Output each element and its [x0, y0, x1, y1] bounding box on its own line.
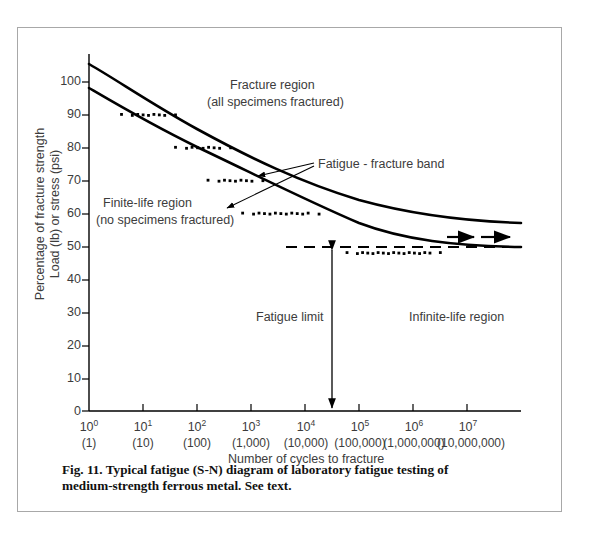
scatter-point	[413, 252, 416, 255]
scatter-point	[207, 179, 210, 182]
fatigue-band-leader-lines	[227, 163, 314, 208]
scatter-point	[382, 252, 385, 255]
figure-caption-line1: Fig. 11. Typical fatigue (S-N) diagram o…	[62, 462, 522, 478]
y-axis-ticks	[82, 82, 89, 411]
scatter-point	[307, 212, 310, 215]
scatter-point	[279, 212, 282, 215]
scatter-point	[258, 212, 261, 215]
scatter-point	[147, 114, 150, 117]
figure-caption-line2: medium-strength ferrous metal. See text.	[62, 478, 522, 494]
scatter-point	[397, 252, 400, 255]
scatter-point	[158, 114, 161, 117]
scatter-point	[213, 146, 216, 149]
scatter-point	[229, 146, 232, 149]
scatter-point	[240, 179, 243, 182]
scatter-point	[120, 113, 123, 116]
scatter-point	[131, 114, 134, 117]
figure-root: Percentage of fracture strength Load (lb…	[0, 0, 591, 535]
scatter-point	[218, 147, 221, 150]
scatter-point	[136, 113, 139, 116]
chart-canvas	[0, 0, 591, 535]
scatter-point	[229, 179, 232, 182]
scatter-point	[251, 180, 254, 183]
axis-lines	[89, 54, 521, 411]
scatter-point	[163, 114, 166, 117]
scatter-point	[207, 146, 210, 149]
scatter-point	[269, 213, 272, 216]
scatter-point	[174, 146, 177, 149]
scatter-point	[153, 113, 156, 116]
scatter-point	[142, 114, 145, 117]
scatter-point	[234, 180, 237, 183]
scatter-point	[392, 251, 395, 254]
scatter-point	[361, 251, 364, 254]
scatter-point	[196, 146, 199, 149]
lower-bound-curve	[89, 88, 521, 247]
scatter-point	[301, 213, 304, 216]
scatter-point	[174, 114, 177, 117]
scatter-point	[185, 147, 188, 150]
scatter-point	[263, 212, 266, 215]
scatter-point	[387, 252, 390, 255]
scatter-point	[346, 251, 349, 254]
scatter-point	[202, 147, 205, 150]
scatter-point	[290, 212, 293, 215]
scatter-point	[318, 213, 321, 216]
scatter-point	[252, 213, 255, 216]
scatter-point	[218, 180, 221, 183]
scatter-point	[191, 146, 194, 149]
scatter-point	[285, 213, 288, 216]
scatter-point	[274, 212, 277, 215]
scatter-point	[366, 252, 369, 255]
scatter-point	[403, 252, 406, 255]
scatter-point	[418, 252, 421, 255]
scatter-point	[296, 212, 299, 215]
scatter-point	[423, 251, 426, 254]
x-axis-ticks	[143, 404, 467, 411]
scatter-point	[372, 252, 375, 255]
scatter-point	[223, 179, 226, 182]
scatter-point	[245, 179, 248, 182]
scatter-point	[241, 212, 244, 215]
scatter-point	[439, 251, 442, 254]
scatter-point	[377, 251, 380, 254]
scatter-point	[408, 251, 411, 254]
scatter-point	[429, 252, 432, 255]
scatter-point	[356, 252, 359, 255]
scatter-point	[262, 179, 265, 182]
figure-caption: Fig. 11. Typical fatigue (S-N) diagram o…	[62, 462, 522, 493]
